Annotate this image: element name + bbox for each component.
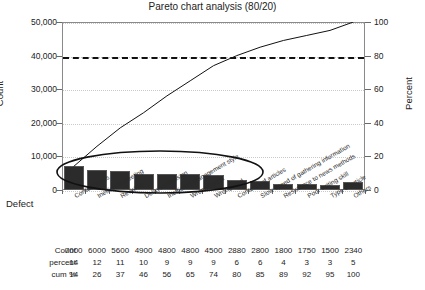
cumulative-line-path: [74, 22, 354, 166]
chart-title: Pareto chart analysis (80/20): [0, 1, 425, 12]
x-axis-title-defect: Defect: [6, 198, 33, 209]
table-row: Count70006000560049004800480045002880280…: [0, 246, 425, 258]
y-tick-label-percent: 60: [374, 84, 383, 94]
table-row: percent14121110999664335: [0, 258, 425, 270]
y-tick-mark: [365, 56, 371, 57]
y-tick-label-percent: 40: [374, 118, 383, 128]
y-tick-label-count: 10,000: [31, 151, 57, 161]
y-tick-label-percent: 20: [374, 151, 383, 161]
y-tick-label-count: 40,000: [31, 51, 57, 61]
table-cell: 100: [338, 270, 368, 279]
y-tick-mark: [365, 156, 371, 157]
data-table: Count70006000560049004800480045002880280…: [0, 246, 425, 282]
y-tick-label-count: 50,000: [31, 17, 57, 27]
table-cell: 5: [338, 258, 368, 267]
y-tick-mark: [365, 89, 371, 90]
y-axis-title-percent: Percent: [403, 77, 414, 110]
y-tick-label-percent: 80: [374, 51, 383, 61]
table-row: cum %142637465665748085899295100: [0, 270, 425, 282]
y-tick-label-count: 30,000: [31, 84, 57, 94]
y-tick-label-percent: 100: [374, 17, 388, 27]
y-tick-label-count: 20,000: [31, 118, 57, 128]
y-tick-label-percent: 0: [374, 185, 379, 195]
pareto-chart-figure: Pareto chart analysis (80/20) Count Perc…: [0, 0, 425, 290]
y-tick-mark: [365, 123, 371, 124]
y-axis-title-count: Count: [0, 81, 5, 106]
table-cell: 2340: [338, 246, 368, 255]
y-tick-mark: [365, 22, 371, 23]
x-tick-mark: [62, 190, 63, 194]
